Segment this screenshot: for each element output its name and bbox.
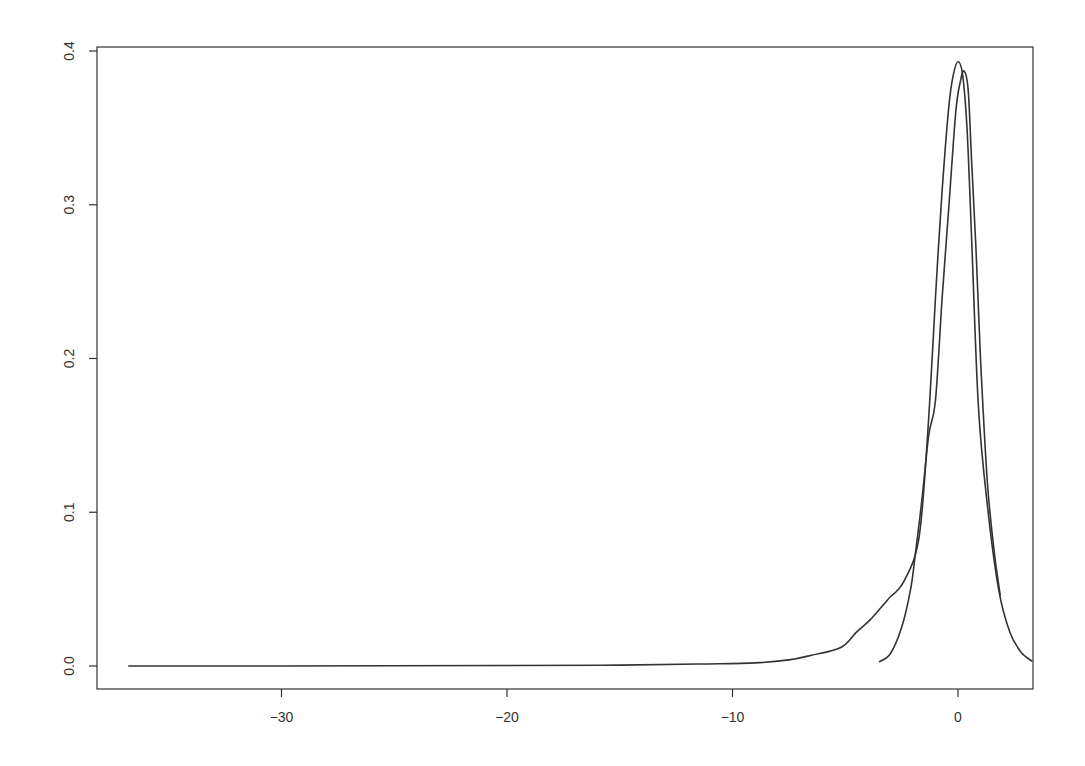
x-tick-label: −10	[721, 709, 745, 725]
x-tick-label: −30	[270, 709, 294, 725]
y-tick-label: 0.1	[61, 502, 77, 522]
x-tick-label: −20	[495, 709, 519, 725]
density-plot: −30−20−100 0.00.10.20.30.4	[0, 0, 1085, 766]
y-tick-label: 0.3	[61, 195, 77, 215]
x-tick-label: 0	[954, 709, 962, 725]
plot-background	[0, 0, 1085, 766]
y-tick-label: 0.4	[61, 41, 77, 61]
y-tick-label: 0.0	[61, 656, 77, 676]
y-tick-label: 0.2	[61, 349, 77, 369]
